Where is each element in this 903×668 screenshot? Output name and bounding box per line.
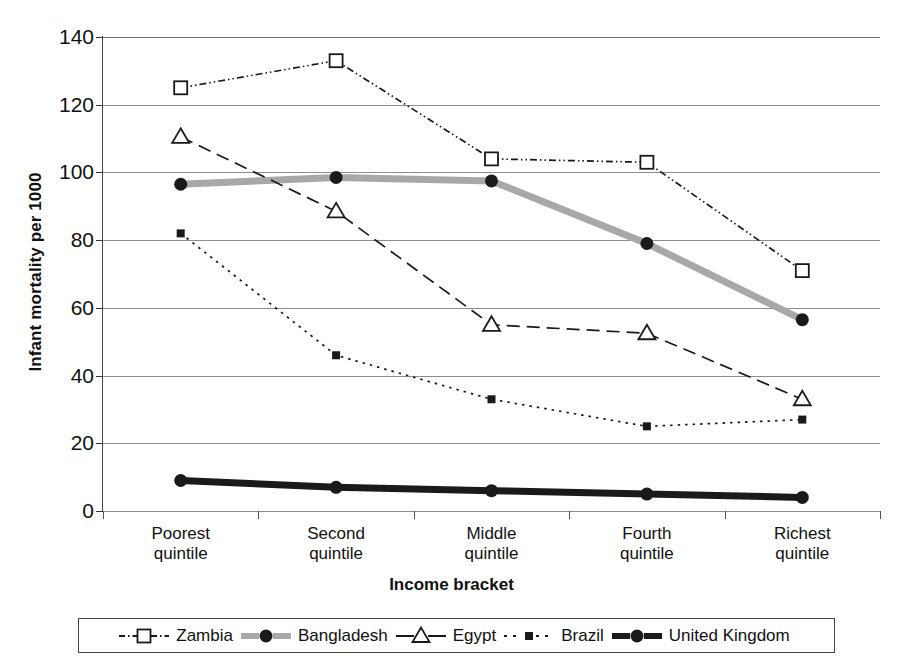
legend-symbol-filled-circle-icon [610, 625, 664, 647]
x-axis-title: Income bracket [0, 575, 903, 595]
x-axis-category-label: Fourthquintile [577, 524, 717, 564]
legend-item-bangladesh[interactable]: Bangladesh [239, 619, 394, 652]
category-label-line2: quintile [266, 544, 406, 564]
legend-item-label: Egypt [448, 626, 502, 646]
chart-legend: ZambiaBangladeshEgyptBrazilUnited Kingdo… [78, 618, 835, 653]
y-axis-tick-label: 40 [36, 365, 94, 386]
x-axis-category-label: Richestquintile [732, 524, 872, 564]
y-axis-tick-label: 20 [36, 432, 94, 453]
y-axis-tick-label: 0 [36, 500, 94, 521]
legend-item-egypt[interactable]: Egypt [394, 619, 502, 652]
legend-item-label: Zambia [171, 626, 239, 646]
category-label-line1: Poorest [111, 524, 251, 544]
legend-item-brazil[interactable]: Brazil [502, 619, 610, 652]
x-axis-category-label: Secondquintile [266, 524, 406, 564]
category-label-line1: Fourth [577, 524, 717, 544]
x-axis-tick-mark [414, 511, 415, 519]
x-axis-tick-mark [258, 511, 259, 519]
x-axis-category-label: Poorestquintile [111, 524, 251, 564]
legend-item-label: Bangladesh [293, 626, 394, 646]
y-axis-tick-label: 100 [36, 161, 94, 182]
x-axis-tick-mark [725, 511, 726, 519]
x-axis-tick-mark [569, 511, 570, 519]
plot-area [103, 37, 880, 511]
small-square-marker [525, 632, 533, 640]
legend-symbol-small-square-icon [502, 625, 556, 647]
filled-circle-marker [630, 629, 643, 642]
gridline [103, 172, 880, 173]
legend-item-label: United Kingdom [664, 626, 796, 646]
legend-symbol-filled-circle-icon [239, 625, 293, 647]
category-label-line1: Second [266, 524, 406, 544]
x-axis-category-label: Middlequintile [422, 524, 562, 564]
legend-symbol-open-square-icon [117, 625, 171, 647]
category-label-line2: quintile [732, 544, 872, 564]
gridline [103, 443, 880, 444]
legend-item-label: Brazil [556, 626, 610, 646]
y-axis-tick-label: 80 [36, 229, 94, 250]
y-axis-tick-label: 140 [36, 26, 94, 47]
open-square-marker [138, 629, 151, 642]
filled-circle-marker [259, 629, 272, 642]
legend-item-united-kingdom[interactable]: United Kingdom [610, 619, 796, 652]
category-label-line2: quintile [577, 544, 717, 564]
category-label-line2: quintile [422, 544, 562, 564]
category-label-line1: Richest [732, 524, 872, 544]
category-label-line1: Middle [422, 524, 562, 544]
gridline [103, 37, 880, 38]
y-axis-tick-label: 60 [36, 297, 94, 318]
x-axis-tick-mark [103, 511, 104, 519]
legend-symbol-open-triangle-icon [394, 625, 448, 647]
gridline [103, 240, 880, 241]
gridline [103, 105, 880, 106]
y-axis-tick-label: 120 [36, 94, 94, 115]
x-axis-tick-mark [880, 511, 881, 519]
category-label-line2: quintile [111, 544, 251, 564]
legend-item-zambia[interactable]: Zambia [117, 619, 239, 652]
gridline [103, 511, 880, 512]
gridline [103, 308, 880, 309]
open-triangle-marker [412, 627, 429, 642]
chart-figure: Infant mortality per 1000 02040608010012… [0, 0, 903, 668]
gridline [103, 376, 880, 377]
